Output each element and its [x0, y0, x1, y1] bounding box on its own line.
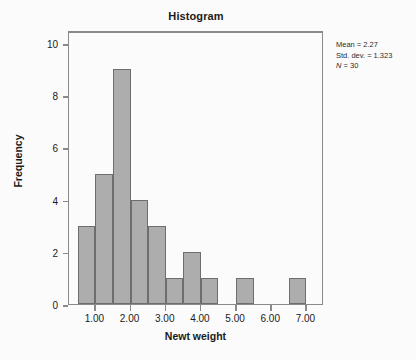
x-tick-mark: [270, 305, 272, 311]
y-tick-label: 6: [52, 143, 58, 154]
y-tick-label: 4: [52, 195, 58, 206]
y-axis: 0246810 Frequency: [0, 31, 68, 305]
histogram-bar: [131, 200, 149, 304]
y-tick-label: 2: [52, 247, 58, 258]
y-tick-label: 0: [52, 300, 58, 311]
x-tick-label: 3.00: [155, 313, 174, 324]
y-axis-title: Frequency: [12, 101, 24, 221]
histogram-bar: [95, 174, 113, 304]
x-tick-mark: [130, 305, 132, 311]
histogram-bar: [148, 226, 166, 304]
statistics-annotation: Mean = 2.27 Std. dev. = 1.323 N = 30: [336, 40, 414, 72]
stat-n: N = 30: [336, 61, 414, 72]
histogram-bar: [236, 278, 254, 304]
x-tick-mark: [305, 305, 307, 311]
chart-title: Histogram: [68, 10, 324, 22]
x-tick-label: 7.00: [296, 313, 315, 324]
x-tick-label: 1.00: [85, 313, 104, 324]
x-tick-label: 5.00: [225, 313, 244, 324]
plot-area: [69, 33, 322, 304]
histogram-bar: [166, 278, 184, 304]
x-tick-label: 2.00: [120, 313, 139, 324]
stat-n-value: = 30: [341, 61, 358, 70]
stat-mean: Mean = 2.27: [336, 40, 414, 51]
y-tick-label: 10: [47, 39, 58, 50]
x-tick-label: 4.00: [190, 313, 209, 324]
histogram-figure: Histogram 0246810 Frequency 1.002.003.00…: [0, 0, 416, 360]
x-tick-mark: [200, 305, 202, 311]
histogram-bar: [78, 226, 96, 304]
histogram-bar: [113, 69, 131, 304]
plot-frame: [68, 31, 323, 305]
y-tick-label: 8: [52, 91, 58, 102]
x-tick-mark: [235, 305, 237, 311]
x-tick-mark: [94, 305, 96, 311]
x-axis-title: Newt weight: [68, 330, 323, 342]
x-tick-label: 6.00: [261, 313, 280, 324]
stat-stddev: Std. dev. = 1.323: [336, 51, 414, 62]
histogram-bar: [289, 278, 307, 304]
histogram-bar: [201, 278, 219, 304]
x-tick-mark: [165, 305, 167, 311]
histogram-bar: [183, 252, 201, 304]
